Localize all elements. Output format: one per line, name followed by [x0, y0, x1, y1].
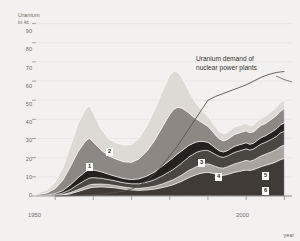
y-tick-60: 60 [16, 83, 32, 89]
band-label-4: 4 [215, 173, 222, 181]
stacked-area-plot [0, 0, 300, 241]
y-tick-0: 0 [16, 192, 32, 198]
band-label-5: 5 [262, 172, 269, 180]
x-axis-title: year [284, 232, 295, 238]
y-tick-20: 20 [16, 156, 32, 162]
band-label-2: 2 [106, 148, 113, 156]
y-tick-90: 90 [16, 28, 32, 34]
y-tick-10: 10 [16, 174, 32, 180]
y-tick-40: 40 [16, 119, 32, 125]
x-tick-1950: 1950 [28, 212, 41, 218]
x-tick-2000: 2000 [236, 212, 249, 218]
y-tick-50: 50 [16, 101, 32, 107]
y-tick-70: 70 [16, 65, 32, 71]
band-label-3: 3 [198, 159, 205, 167]
band-label-1: 1 [86, 163, 93, 171]
demand-line-annotation: Uranium demand of nuclear power plants [196, 54, 257, 72]
chart-root: Uranium in kt year 90 80 70 60 50 40 30 … [0, 0, 300, 241]
band-label-6: 6 [262, 187, 269, 195]
y-axis-title: Uranium in kt [18, 12, 40, 27]
y-tick-80: 80 [16, 46, 32, 52]
y-tick-30: 30 [16, 137, 32, 143]
